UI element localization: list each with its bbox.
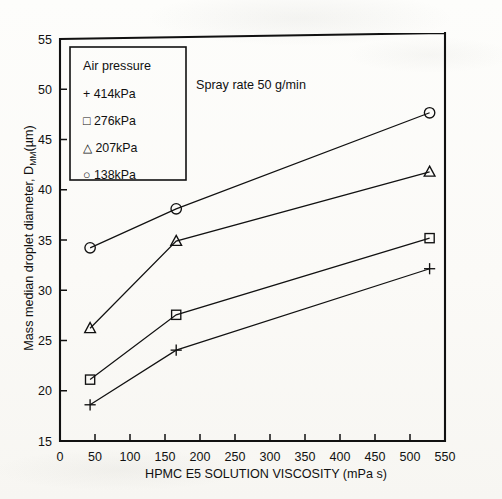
annotation-spray-rate: Spray rate 50 g/min (196, 78, 306, 92)
scatter-line-chart: 050100150200250300350400450500550 152025… (0, 0, 502, 499)
series-line (90, 238, 430, 379)
x-tick-label: 350 (295, 450, 316, 464)
x-tick-label: 150 (155, 450, 176, 464)
legend-item-207kPa: △ 207kPa (83, 141, 138, 155)
y-tick-label: 45 (38, 133, 52, 147)
x-axis-title: HPMC E5 SOLUTION VISCOSITY (mPa s) (145, 467, 387, 481)
y-axis-ticks: 152025303540455055 (38, 33, 67, 449)
legend-items: + 414kPa□ 276kPa△ 207kPa○ 138kPa (83, 87, 138, 182)
y-tick-label: 50 (38, 83, 52, 97)
x-tick-label: 100 (120, 450, 141, 464)
data-point-triangle (424, 166, 435, 176)
y-tick-label: 40 (38, 183, 52, 197)
y-axis-title-unit: (µm) (22, 125, 36, 151)
y-tick-label: 25 (38, 334, 52, 348)
x-tick-label: 550 (435, 450, 456, 464)
y-tick-label: 15 (38, 435, 52, 449)
y-tick-label: 20 (38, 384, 52, 398)
data-point-plus (424, 263, 435, 274)
x-tick-label: 200 (190, 450, 211, 464)
series-line (90, 172, 430, 328)
legend-item-276kPa: □ 276kPa (83, 114, 136, 128)
x-tick-label: 400 (330, 450, 351, 464)
x-tick-label: 250 (225, 450, 246, 464)
x-tick-label: 450 (365, 450, 386, 464)
x-tick-label: 300 (260, 450, 281, 464)
y-tick-label: 30 (38, 284, 52, 298)
y-axis-title-main: Mass median droplet diameter, D (22, 166, 36, 351)
data-point-plus (171, 345, 182, 356)
data-point-plus (85, 399, 96, 410)
series-276kPa (86, 234, 435, 385)
chart-svg: 050100150200250300350400450500550 152025… (0, 0, 502, 499)
series-414kPa (85, 263, 436, 410)
y-tick-label: 35 (38, 234, 52, 248)
x-tick-label: 50 (88, 450, 102, 464)
legend: Air pressure + 414kPa□ 276kPa△ 207kPa○ 1… (70, 47, 186, 182)
y-axis-title: Mass median droplet diameter, DMM(µm) (22, 125, 38, 350)
x-tick-label: 0 (57, 450, 64, 464)
legend-title: Air pressure (83, 59, 151, 73)
y-tick-label: 55 (38, 33, 52, 47)
x-axis-ticks: 050100150200250300350400450500550 (57, 434, 456, 464)
x-tick-label: 500 (400, 450, 421, 464)
legend-item-138kPa: ○ 138kPa (83, 168, 136, 182)
legend-item-414kPa: + 414kPa (83, 87, 136, 101)
svg-text:Mass median droplet diameter,: Mass median droplet diameter, DMM(µm) (22, 125, 38, 350)
series-207kPa (85, 166, 435, 333)
y-axis-title-subscript: MM (28, 152, 38, 166)
